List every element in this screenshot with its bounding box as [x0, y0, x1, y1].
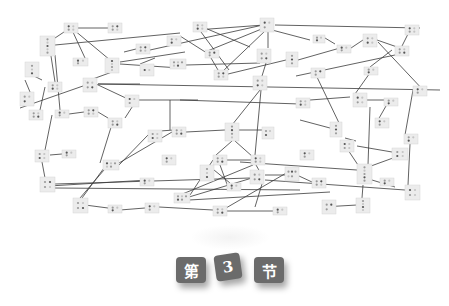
node-dot	[197, 28, 199, 30]
network-node	[285, 167, 299, 181]
network-edge	[98, 84, 440, 90]
network-node	[340, 140, 354, 152]
network-node	[313, 35, 325, 43]
node-dot	[300, 104, 302, 106]
network-node	[257, 49, 271, 63]
node-dot	[46, 52, 48, 54]
node-dot	[33, 116, 35, 118]
node-dot	[231, 187, 233, 189]
network-edge	[351, 40, 363, 48]
network-node	[103, 160, 119, 170]
network-edge	[51, 56, 55, 82]
node-dot	[408, 140, 410, 142]
network-edge	[235, 141, 253, 157]
node-dot	[43, 157, 45, 159]
node-dot	[201, 24, 203, 26]
node-dot	[316, 37, 318, 39]
node-dot	[213, 52, 215, 54]
node-dot	[345, 47, 347, 49]
node-dot	[82, 202, 84, 204]
node-dot	[217, 157, 219, 159]
node-dot	[221, 212, 223, 214]
node-dot	[144, 50, 146, 52]
node-dot	[106, 162, 108, 164]
node-dot	[181, 61, 183, 63]
network-node	[35, 150, 49, 162]
network-node	[84, 107, 98, 117]
network-node	[363, 34, 377, 47]
section-prefix-tile: 第	[176, 257, 206, 283]
network-node	[108, 205, 122, 213]
node-dot	[149, 205, 151, 207]
node-dot	[268, 22, 270, 24]
node-dot	[315, 74, 317, 76]
node-dot	[361, 101, 363, 103]
network-node	[108, 23, 122, 33]
network-edge	[159, 207, 213, 210]
network-node	[73, 198, 88, 213]
node-dot	[144, 69, 146, 71]
node-dot	[304, 156, 306, 158]
network-edge	[368, 107, 370, 165]
node-dot	[144, 182, 146, 184]
network-edge	[25, 80, 30, 92]
network-node	[380, 178, 394, 186]
node-dot	[330, 204, 332, 206]
node-dot	[153, 205, 155, 207]
node-dot	[259, 161, 261, 163]
node-dot	[28, 96, 30, 98]
node-dot	[291, 171, 293, 173]
node-dot	[361, 97, 363, 99]
node-dot	[176, 133, 178, 135]
network-node	[330, 122, 342, 137]
node-dot	[56, 88, 58, 90]
node-dot	[111, 69, 113, 71]
node-dot	[357, 101, 359, 103]
network-node	[73, 58, 88, 66]
network-node	[205, 50, 219, 58]
node-dot	[46, 38, 48, 40]
section-prefix-text: 第	[184, 260, 199, 281]
node-dot	[39, 157, 41, 159]
node-dot	[92, 109, 94, 111]
network-edge	[316, 75, 340, 125]
node-dot	[70, 152, 72, 154]
node-dot	[291, 175, 293, 177]
node-dot	[367, 37, 369, 39]
node-dot	[173, 61, 175, 63]
node-dot	[56, 84, 58, 86]
network-diagram	[0, 0, 449, 230]
network-node	[170, 59, 186, 69]
node-dot	[294, 171, 296, 173]
node-dot	[231, 133, 233, 135]
node-dot	[235, 185, 237, 187]
node-dot	[209, 54, 211, 56]
node-dot	[264, 26, 266, 28]
node-dot	[116, 207, 118, 209]
node-dot	[111, 66, 113, 68]
node-dot	[33, 112, 35, 114]
network-edge	[405, 90, 413, 135]
network-edge	[300, 120, 330, 128]
network-node	[253, 76, 267, 90]
node-dot	[362, 203, 364, 205]
node-dot	[409, 27, 411, 29]
node-dot	[24, 96, 26, 98]
network-edge	[325, 38, 335, 44]
network-edge	[45, 115, 52, 150]
network-node	[55, 110, 69, 118]
node-dot	[341, 47, 343, 49]
node-dot	[116, 29, 118, 31]
network-node	[356, 198, 370, 213]
node-dot	[300, 100, 302, 102]
network-node	[148, 130, 162, 142]
network-node	[140, 64, 154, 76]
network-node	[145, 203, 159, 213]
network-node	[40, 177, 55, 192]
node-dot	[408, 136, 410, 138]
network-edge	[205, 28, 250, 47]
node-dot	[335, 128, 337, 130]
network-node	[225, 123, 239, 141]
node-dot	[388, 102, 390, 104]
node-dot	[255, 157, 257, 159]
